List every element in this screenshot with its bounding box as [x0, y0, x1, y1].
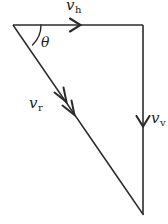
arrowhead-resultant-second-icon [63, 101, 75, 116]
label-vh-base: v [66, 0, 74, 14]
label-vh-subscript: h [75, 4, 81, 15]
label-vr-base: v [29, 94, 37, 112]
angle-arc-theta [33, 25, 42, 45]
vector-diagram-canvas [0, 0, 168, 224]
vector-line-resultant [13, 25, 144, 215]
label-vr: vr [29, 95, 43, 113]
vector-diagram: vh vr vv θ [0, 0, 168, 224]
label-vv: vv [151, 110, 166, 128]
label-vv-subscript: v [160, 117, 166, 128]
label-theta: θ [41, 35, 49, 49]
label-vv-base: v [151, 109, 159, 127]
label-vh: vh [66, 0, 81, 15]
label-vr-subscript: r [38, 102, 43, 113]
